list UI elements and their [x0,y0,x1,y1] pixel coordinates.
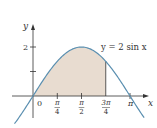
x-tick-label-pi-2-num: π [78,99,84,107]
x-tick-label-pi-4-den: 4 [55,108,60,116]
y-tick-label-2: 2 [23,43,28,52]
x-tick-label-3pi-4-num: 3π [101,99,110,107]
x-tick-label-pi: π [127,99,134,108]
x-axis-label: x [148,98,153,108]
y-axis-arrow-icon [31,24,35,30]
x-tick-label-3pi-4-den: 4 [104,108,109,116]
x-tick-label-0: 0 [37,99,42,108]
x-tick-label-pi-2-den: 2 [79,108,83,116]
x-tick-label-pi-4-num: π [54,99,60,107]
y-axis-label: y [22,21,29,31]
chart: y x 2 0 π 4 π 2 3π 4 π y = 2 sin x [0,0,157,128]
function-label: y = 2 sin x [100,42,147,52]
shaded-area [33,47,106,96]
